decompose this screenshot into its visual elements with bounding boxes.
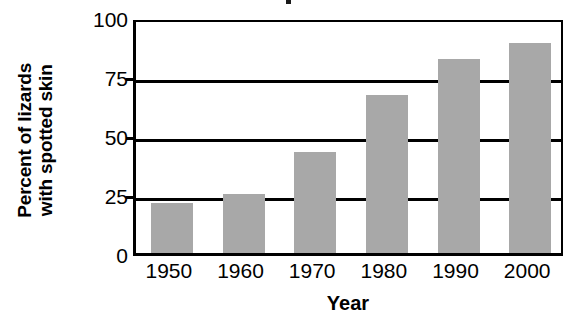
- plot-area: [133, 20, 563, 256]
- y-axis-tick-labels: 0255075100: [78, 0, 128, 321]
- x-tick-label-1950: 1950: [133, 260, 205, 281]
- cropped-title-remnant: [286, 0, 291, 4]
- bar-1980: [366, 95, 408, 253]
- bars: [136, 22, 561, 253]
- x-tick-label-2000: 2000: [491, 260, 563, 281]
- y-tick-label-25: 25: [84, 186, 128, 207]
- x-tick-label-1960: 1960: [205, 260, 277, 281]
- y-tick-mark-25: [126, 196, 134, 199]
- x-tick-label-1980: 1980: [348, 260, 420, 281]
- x-tick-label-1970: 1970: [276, 260, 348, 281]
- y-tick-mark-75: [126, 78, 134, 81]
- y-tick-label-100: 100: [84, 9, 128, 30]
- y-tick-label-0: 0: [84, 245, 128, 266]
- y-axis-title-line-2: with spotted skin: [35, 64, 56, 216]
- bar-1950: [151, 203, 193, 253]
- x-axis-title: Year: [133, 292, 563, 315]
- y-tick-label-75: 75: [84, 68, 128, 89]
- bar-2000: [509, 43, 551, 253]
- y-axis-title-line-1: Percent of lizards: [14, 63, 35, 218]
- bar-1970: [294, 152, 336, 253]
- x-axis-tick-labels: 195019601970198019902000: [133, 260, 563, 290]
- bar-1990: [438, 59, 480, 253]
- y-tick-mark-50: [126, 137, 134, 140]
- bar-chart: Percent of lizards with spotted skin 025…: [0, 0, 576, 321]
- y-axis-title: Percent of lizards with spotted skin: [0, 0, 70, 280]
- x-tick-label-1990: 1990: [420, 260, 492, 281]
- bar-1960: [223, 194, 265, 253]
- y-tick-label-50: 50: [84, 127, 128, 148]
